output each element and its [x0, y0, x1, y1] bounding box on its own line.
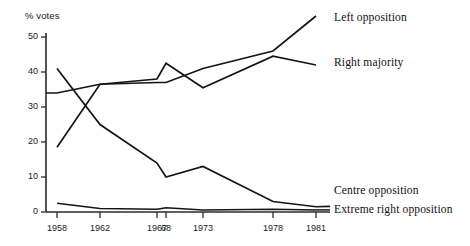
- y-tick-label-30: 30: [16, 102, 38, 111]
- y-tick-label-20: 20: [16, 137, 38, 146]
- vote-share-line-chart: % votes 50 40 30 20 10 0 1958 1962 1967 …: [0, 0, 470, 246]
- series-line-extreme-right-opposition: [57, 203, 316, 210]
- x-tick-marks: [57, 212, 316, 218]
- y-tick-label-10: 10: [16, 172, 38, 181]
- y-axis-title: % votes: [25, 11, 60, 21]
- x-tick-label-68: 68: [155, 224, 177, 233]
- label-leader-lines: [316, 206, 330, 210]
- series-label-left-opposition: Left opposition: [334, 12, 407, 24]
- x-tick-label-1978: 1978: [254, 224, 292, 233]
- y-tick-label-50: 50: [16, 32, 38, 41]
- x-tick-label-1962: 1962: [81, 224, 119, 233]
- x-tick-label-1981: 1981: [297, 224, 335, 233]
- x-tick-label-1958: 1958: [38, 224, 76, 233]
- series-label-extreme-right-opposition: Extreme right opposition: [334, 204, 453, 216]
- series-line-left-opposition: [57, 16, 316, 147]
- y-tick-label-0: 0: [16, 207, 38, 216]
- x-tick-label-1973: 1973: [184, 224, 222, 233]
- y-tick-label-40: 40: [16, 67, 38, 76]
- series-label-right-majority: Right majority: [334, 57, 404, 69]
- series-label-centre-opposition: Centre opposition: [334, 185, 419, 197]
- series-line-right-majority: [46, 56, 316, 93]
